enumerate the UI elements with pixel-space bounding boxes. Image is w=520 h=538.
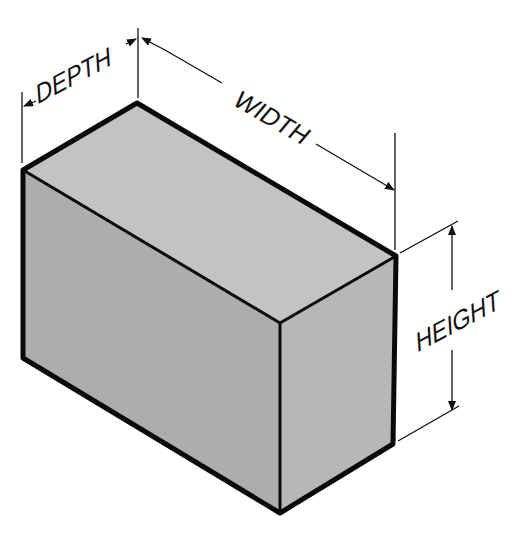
height-label: HEIGHT: [412, 284, 504, 357]
box: [23, 103, 396, 513]
width-label: WIDTH: [228, 86, 317, 149]
height-dimension: HEIGHT: [412, 226, 504, 410]
depth-label: DEPTH: [32, 41, 114, 109]
isometric-box-diagram: DEPTH WIDTH HEIGHT: [0, 0, 520, 538]
depth-dimension: DEPTH: [24, 39, 136, 109]
